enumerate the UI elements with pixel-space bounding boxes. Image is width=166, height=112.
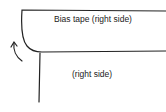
fabric-label: (right side) — [72, 69, 112, 79]
fold-arrow-icon — [14, 43, 22, 61]
fabric-edge-line — [39, 53, 40, 102]
bias-tape-label: Bias tape (right side) — [54, 14, 132, 24]
